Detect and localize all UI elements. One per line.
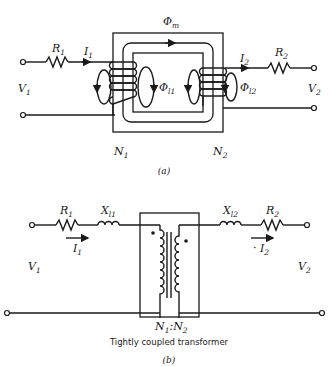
primary-coil-b [160, 225, 164, 318]
b-x1-label: Xl1 [100, 204, 116, 219]
figure-b: R1 Xl1 I1 V1 Xl2 R2 · I2 V2 N1:N2 Tightl… [5, 204, 325, 365]
transformer-box [140, 213, 199, 317]
terminal-v2-top [312, 66, 317, 71]
terminal-b-v2-top [305, 223, 310, 228]
resistor-r2 [268, 63, 290, 73]
b-v2-label: V2 [298, 260, 311, 275]
b-r2-label: R2 [265, 204, 279, 219]
terminal-v1-top [21, 60, 26, 65]
phi-l1-label: Φl1 [159, 81, 175, 96]
transformer-note: Tightly coupled transformer [109, 337, 229, 347]
terminal-v1-bottom [21, 113, 26, 118]
b-r1-label: R1 [59, 204, 73, 219]
secondary-dot [184, 239, 188, 243]
b-x2-label: Xl2 [222, 204, 238, 219]
phi-m-label: Φm [163, 15, 179, 30]
turns-ratio-label: N1:N2 [154, 320, 188, 335]
caption-a: (a) [158, 166, 171, 176]
resistor-b-r1 [56, 220, 78, 230]
transformer-diagram: Φm Φl1 [0, 0, 329, 367]
terminal-v2-bottom [312, 106, 317, 111]
b-v1-label: V1 [28, 260, 41, 275]
leakage-loop-inner-right [188, 70, 200, 104]
v2-label: V2 [308, 82, 321, 97]
r1-label: R1 [51, 42, 65, 57]
r2-label: R2 [274, 46, 288, 61]
leakage-flux-l1 [138, 67, 154, 107]
caption-b: (b) [163, 355, 176, 365]
resistor-r1 [46, 57, 68, 67]
figure-a: Φm Φl1 [18, 15, 321, 176]
n2-label: N2 [212, 145, 228, 160]
resistor-b-r2 [261, 220, 283, 230]
b-i1-label: I1 [72, 242, 82, 257]
primary-dot [151, 231, 155, 235]
terminal-b-v1-bottom [5, 311, 10, 316]
inductor-b-xl2 [220, 222, 241, 225]
i2-label: I2 [239, 52, 249, 67]
b-i2-label: · I2 [253, 242, 269, 257]
inductor-b-xl1 [98, 222, 119, 225]
i1-label: I1 [83, 45, 93, 60]
n1-label: N1 [113, 145, 128, 160]
terminal-b-v2-bottom [320, 311, 325, 316]
v1-label: V1 [18, 82, 31, 97]
phi-l2-label: Φl2 [240, 81, 256, 96]
terminal-b-v1-top [30, 223, 35, 228]
secondary-coil-b [175, 225, 179, 318]
